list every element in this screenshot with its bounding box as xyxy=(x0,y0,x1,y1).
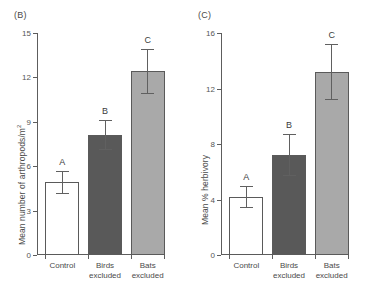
error-bar-cap-bottom xyxy=(283,175,296,176)
y-axis-tick xyxy=(217,89,221,90)
significance-letter: B xyxy=(286,120,292,130)
error-bar-cap-top xyxy=(141,49,154,50)
x-axis-tick-end xyxy=(348,255,349,259)
significance-letter: A xyxy=(243,172,249,182)
error-bar-stem xyxy=(289,134,290,176)
y-axis-tick xyxy=(217,255,221,256)
error-bar xyxy=(95,120,115,150)
error-bar-cap-bottom xyxy=(99,149,112,150)
x-axis-category-line: excluded xyxy=(316,271,348,281)
x-axis-category-line: Control xyxy=(49,261,75,271)
x-axis-category-label: Batsexcluded xyxy=(316,261,348,281)
error-bar xyxy=(236,186,256,208)
error-bar-cap-bottom xyxy=(141,93,154,94)
error-bar-stem xyxy=(147,49,148,93)
x-axis-tick xyxy=(88,255,89,259)
significance-letter: C xyxy=(144,35,151,45)
x-axis-category-line: excluded xyxy=(132,271,164,281)
x-axis-tick xyxy=(229,255,230,259)
y-axis-label-text: Mean number of arthropods/m xyxy=(17,128,27,245)
significance-letter: C xyxy=(328,30,335,40)
chart-panel-b: (B) Mean number of arthropods/m2 0369121… xyxy=(0,0,184,294)
error-bar-cap-top xyxy=(325,44,338,45)
x-axis-category-label: Birdsexcluded xyxy=(89,261,121,281)
error-bar-cap-top xyxy=(56,171,69,172)
error-bar-cap-top xyxy=(240,186,253,187)
x-axis-category-label: Control xyxy=(49,261,75,271)
error-bar-cap-bottom xyxy=(325,99,338,100)
error-bar-cap-bottom xyxy=(240,207,253,208)
panel-label-b: (B) xyxy=(14,10,27,20)
y-axis-tick xyxy=(217,144,221,145)
bar-bats-excluded xyxy=(131,71,165,255)
y-axis-tick xyxy=(33,77,37,78)
plot-area-c: 0481216ABC xyxy=(221,33,349,255)
error-bar xyxy=(52,171,72,193)
x-axis-category-line: Birds xyxy=(273,261,305,271)
y-axis-tick-label: 0 xyxy=(27,251,31,260)
y-axis-tick-label: 0 xyxy=(211,251,215,260)
y-axis-tick xyxy=(33,122,37,123)
error-bar xyxy=(138,49,158,93)
error-bar xyxy=(322,44,342,100)
y-axis-tick-label: 4 xyxy=(211,195,215,204)
figure-root: (B) Mean number of arthropods/m2 0369121… xyxy=(0,0,368,294)
x-axis-category-line: excluded xyxy=(273,271,305,281)
x-axis-category-line: Birds xyxy=(89,261,121,271)
y-axis-tick-label: 12 xyxy=(22,73,31,82)
y-axis-label-b: Mean number of arthropods/m2 xyxy=(16,125,27,245)
x-axis-category-line: Bats xyxy=(132,261,164,271)
x-axis-category-line: excluded xyxy=(89,271,121,281)
x-axis-tick xyxy=(131,255,132,259)
x-axis-tick xyxy=(315,255,316,259)
x-axis-category-label: Birdsexcluded xyxy=(273,261,305,281)
error-bar-cap-top xyxy=(283,134,296,135)
y-axis-tick-label: 15 xyxy=(22,29,31,38)
y-axis-line-b xyxy=(37,33,38,255)
x-axis-category-label: Control xyxy=(233,261,259,271)
y-axis-tick-label: 8 xyxy=(211,140,215,149)
y-axis-tick-label: 6 xyxy=(27,162,31,171)
y-axis-tick xyxy=(33,211,37,212)
plot-area-b: 03691215ABC xyxy=(37,33,165,255)
y-axis-tick xyxy=(217,200,221,201)
x-axis-tick-end xyxy=(164,255,165,259)
x-axis-category-line: Bats xyxy=(316,261,348,271)
y-axis-tick-label: 9 xyxy=(27,117,31,126)
x-axis-tick xyxy=(272,255,273,259)
y-axis-tick-label: 3 xyxy=(27,206,31,215)
significance-letter: B xyxy=(102,106,108,116)
bar-birds-excluded xyxy=(88,135,122,255)
error-bar-stem xyxy=(105,120,106,150)
error-bar-stem xyxy=(62,171,63,193)
x-axis-category-line: Control xyxy=(233,261,259,271)
chart-panel-c: (C) Mean % herbivory 0481216ABC ControlB… xyxy=(184,0,368,294)
y-axis-tick xyxy=(217,33,221,34)
error-bar-cap-top xyxy=(99,120,112,121)
y-axis-tick-label: 12 xyxy=(206,84,215,93)
y-axis-label-text: Mean % herbivory xyxy=(200,155,210,225)
error-bar-stem xyxy=(331,44,332,100)
y-axis-label-c: Mean % herbivory xyxy=(200,155,210,225)
x-axis-category-label: Batsexcluded xyxy=(132,261,164,281)
error-bar xyxy=(279,134,299,176)
error-bar-stem xyxy=(246,186,247,208)
panel-label-c: (C) xyxy=(198,10,211,20)
y-axis-tick xyxy=(33,33,37,34)
x-axis-tick xyxy=(45,255,46,259)
y-axis-line-c xyxy=(221,33,222,255)
y-axis-tick xyxy=(33,255,37,256)
y-axis-tick-label: 16 xyxy=(206,29,215,38)
y-axis-label-exponent: 2 xyxy=(16,125,22,128)
significance-letter: A xyxy=(59,157,65,167)
error-bar-cap-bottom xyxy=(56,193,69,194)
y-axis-tick xyxy=(33,166,37,167)
